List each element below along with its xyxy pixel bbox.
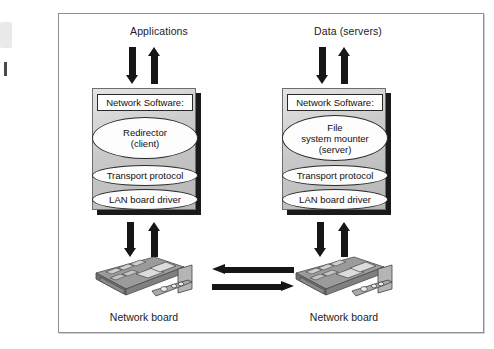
layer-transport-protocol-server: Transport protocol	[282, 165, 388, 186]
arrow-server-stack-to-board-down	[314, 222, 327, 257]
arrow-client-stack-to-board-down	[124, 222, 137, 257]
scan-artifact-tick	[4, 62, 7, 76]
arrow-applications-down	[126, 47, 139, 84]
arrow-network-link-left	[212, 264, 294, 275]
label-network-board-left: Network board	[89, 311, 199, 323]
caption-data-servers: Data (servers)	[293, 25, 403, 37]
network-software-box-client: Network Software: Redirector (client) Tr…	[92, 88, 196, 210]
nic-illustration-left	[92, 255, 196, 307]
network-software-title-client: Network Software:	[97, 94, 193, 111]
arrow-client-board-to-stack-up	[148, 222, 161, 257]
nic-illustration-right	[292, 255, 396, 307]
label-network-board-right: Network board	[289, 311, 399, 323]
arrow-server-board-to-stack-up	[338, 222, 351, 257]
layer-lan-board-driver-server-label: LAN board driver	[299, 194, 371, 205]
layer-file-system-mounter-line1: File	[301, 122, 369, 133]
layer-lan-board-driver-server: LAN board driver	[282, 189, 388, 210]
layer-lan-board-driver-client: LAN board driver	[92, 189, 198, 210]
scan-artifact-blob	[0, 22, 12, 48]
layer-transport-protocol-client-label: Transport protocol	[107, 170, 184, 181]
layer-redirector-line1: Redirector	[123, 127, 167, 138]
layer-lan-board-driver-client-label: LAN board driver	[109, 194, 181, 205]
arrow-data-up	[338, 47, 351, 84]
layer-file-system-mounter-line2: system mounter	[301, 133, 369, 144]
layer-redirector-line2: (client)	[123, 138, 167, 149]
network-board-card-right	[292, 255, 396, 307]
arrow-applications-up	[148, 47, 161, 84]
layer-transport-protocol-server-label: Transport protocol	[297, 170, 374, 181]
network-software-title-server: Network Software:	[287, 94, 383, 111]
network-software-box-server: Network Software: File system mounter (s…	[282, 88, 386, 210]
layer-file-system-mounter-line3: (server)	[301, 144, 369, 155]
layer-redirector: Redirector (client)	[92, 117, 198, 159]
layer-file-system-mounter: File system mounter (server)	[282, 115, 388, 161]
arrow-network-link-right	[212, 281, 294, 292]
figure-canvas: Applications Data (servers) Network Soft…	[0, 0, 494, 349]
arrow-data-down	[316, 47, 329, 84]
layer-transport-protocol-client: Transport protocol	[92, 165, 198, 186]
caption-applications: Applications	[104, 25, 214, 37]
network-board-card-left	[92, 255, 196, 307]
